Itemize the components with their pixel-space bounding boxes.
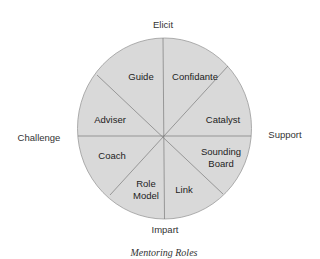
segment-label-guide: Guide xyxy=(128,71,153,82)
segment-label-confidante: Confidante xyxy=(172,71,218,82)
segment-label-sounding: Sounding xyxy=(201,146,241,157)
axis-label-elicit: Elicit xyxy=(153,19,173,30)
segment-label-coach: Coach xyxy=(98,150,125,161)
mentoring-roles-diagram: Guide Confidante Catalyst Sounding Board… xyxy=(0,0,320,259)
segment-label-board: Board xyxy=(208,158,233,169)
segment-label-catalyst: Catalyst xyxy=(206,114,241,125)
segment-label-role: Role xyxy=(136,178,156,189)
axis-label-challenge: Challenge xyxy=(18,132,61,143)
axis-label-support: Support xyxy=(268,129,302,140)
segment-label-link: Link xyxy=(175,184,193,195)
segment-label-model: Model xyxy=(133,190,159,201)
segment-label-adviser: Adviser xyxy=(94,114,126,125)
figure-caption: Mentoring Roles xyxy=(130,247,198,258)
axis-label-impart: Impart xyxy=(152,224,179,235)
